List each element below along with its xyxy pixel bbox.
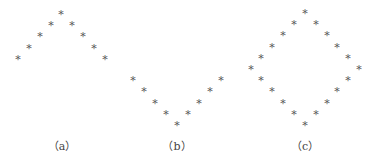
asterisk-point: * bbox=[100, 55, 110, 65]
asterisk-point: * bbox=[150, 99, 160, 109]
asterisk-point: * bbox=[256, 76, 266, 86]
asterisk-point: * bbox=[278, 31, 288, 41]
asterisk-point: * bbox=[256, 54, 266, 64]
asterisk-point: * bbox=[267, 87, 277, 97]
asterisk-point: * bbox=[246, 65, 256, 75]
asterisk-point: * bbox=[300, 9, 310, 19]
panel-b-label: （b） bbox=[162, 137, 191, 153]
panel-a-label: （a） bbox=[48, 137, 77, 153]
asterisk-point: * bbox=[128, 76, 138, 86]
asterisk-point: * bbox=[24, 44, 34, 54]
figure-canvas: ********* ********* ********************… bbox=[0, 0, 368, 165]
cut-off-text-line bbox=[0, 0, 368, 2]
asterisk-point: * bbox=[343, 54, 353, 64]
asterisk-point: * bbox=[205, 87, 215, 97]
asterisk-point: * bbox=[56, 10, 66, 20]
asterisk-point: * bbox=[161, 110, 171, 120]
asterisk-point: * bbox=[278, 99, 288, 109]
asterisk-point: * bbox=[78, 32, 88, 42]
panel-c-label: （c） bbox=[291, 137, 319, 153]
asterisk-point: * bbox=[139, 87, 149, 97]
asterisk-point: * bbox=[322, 99, 332, 109]
asterisk-point: * bbox=[332, 43, 342, 53]
asterisk-point: * bbox=[311, 110, 321, 120]
asterisk-point: * bbox=[46, 21, 56, 31]
asterisk-point: * bbox=[311, 20, 321, 30]
asterisk-point: * bbox=[13, 55, 23, 65]
asterisk-point: * bbox=[194, 99, 204, 109]
asterisk-point: * bbox=[35, 32, 45, 42]
asterisk-point: * bbox=[267, 43, 277, 53]
asterisk-point: * bbox=[343, 76, 353, 86]
asterisk-point: * bbox=[89, 44, 99, 54]
asterisk-point: * bbox=[354, 65, 364, 75]
asterisk-point: * bbox=[332, 87, 342, 97]
asterisk-point: * bbox=[67, 21, 77, 31]
asterisk-point: * bbox=[289, 20, 299, 30]
asterisk-point: * bbox=[289, 110, 299, 120]
asterisk-point: * bbox=[322, 31, 332, 41]
asterisk-point: * bbox=[300, 121, 310, 131]
asterisk-point: * bbox=[216, 76, 226, 86]
asterisk-point: * bbox=[172, 121, 182, 131]
asterisk-point: * bbox=[183, 110, 193, 120]
